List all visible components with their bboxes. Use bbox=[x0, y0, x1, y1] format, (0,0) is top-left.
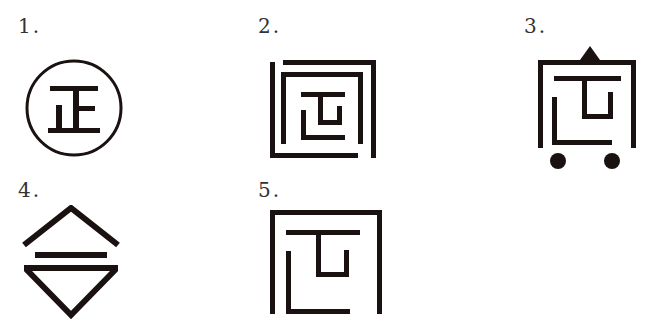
figure-1-label: 1. bbox=[18, 14, 41, 38]
figure-3-cart bbox=[532, 44, 642, 172]
square-maze-icon bbox=[268, 58, 378, 162]
figure-4-diamond bbox=[20, 205, 122, 321]
figure-5-label: 5. bbox=[258, 178, 281, 202]
square-zheng-maze-icon bbox=[268, 208, 384, 320]
figure-2-label: 2. bbox=[258, 14, 281, 38]
figure-5-square bbox=[268, 208, 384, 320]
figure-2-square-maze bbox=[268, 58, 378, 162]
figure-3-label: 3. bbox=[524, 14, 547, 38]
figure-1-circle-zheng bbox=[22, 58, 126, 162]
cart-icon bbox=[532, 44, 642, 172]
circle-zheng-icon bbox=[22, 58, 126, 162]
diamond-chevrons-icon bbox=[20, 205, 122, 321]
figure-4-label: 4. bbox=[18, 178, 41, 202]
